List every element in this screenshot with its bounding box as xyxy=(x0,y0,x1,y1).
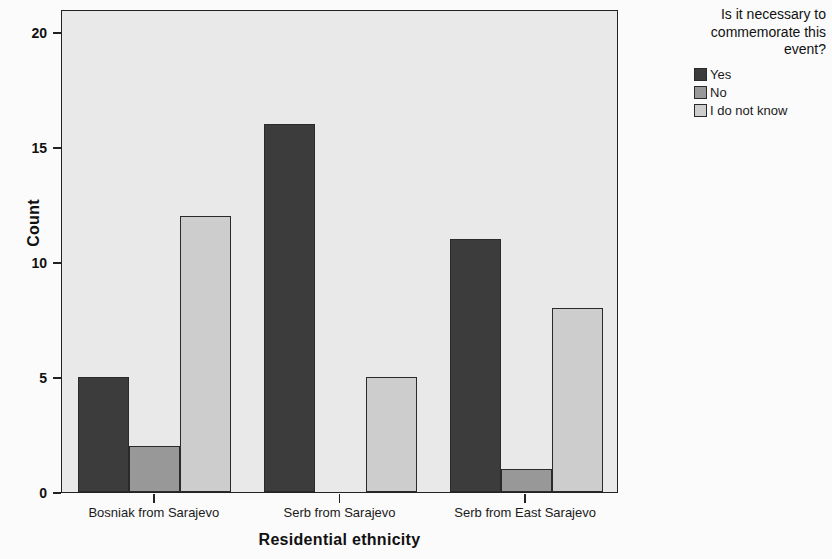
bar xyxy=(78,377,129,492)
plot-area xyxy=(61,10,618,493)
x-axis-tick-label: Serb from Sarajevo xyxy=(247,505,433,520)
y-axis-title: Count xyxy=(25,183,43,263)
bar xyxy=(450,239,501,492)
y-axis-tick-label: 20 xyxy=(13,26,47,40)
x-axis-tick-mark xyxy=(153,494,155,503)
legend-item-label: Yes xyxy=(710,67,731,82)
y-axis-tick-label: 15 xyxy=(13,141,47,155)
legend-title: Is it necessary to commemorate this even… xyxy=(648,6,826,59)
y-axis: 05101520 xyxy=(0,0,61,559)
y-axis-tick-mark xyxy=(53,262,61,264)
x-axis-tick-label: Bosniak from Sarajevo xyxy=(61,505,247,520)
y-axis-tick-mark xyxy=(53,32,61,34)
legend-items: YesNoI do not know xyxy=(648,66,826,119)
bar xyxy=(366,377,417,492)
legend-swatch-icon xyxy=(694,68,707,81)
y-axis-tick-mark xyxy=(53,492,61,494)
bars-container xyxy=(62,11,617,492)
legend-swatch-icon xyxy=(694,86,707,99)
x-axis-tick-mark xyxy=(524,494,526,503)
x-axis-title: Residential ethnicity xyxy=(61,531,618,549)
bar xyxy=(264,124,315,492)
legend-item: Yes xyxy=(694,66,826,83)
y-axis-tick-mark xyxy=(53,377,61,379)
legend-item-label: I do not know xyxy=(710,103,787,118)
x-axis-tick-label: Serb from East Sarajevo xyxy=(432,505,618,520)
bar xyxy=(129,446,180,492)
x-axis-tick-mark xyxy=(339,494,341,503)
y-axis-tick-mark xyxy=(53,147,61,149)
y-axis-tick-label: 5 xyxy=(13,371,47,385)
legend: Is it necessary to commemorate this even… xyxy=(648,6,826,120)
bar xyxy=(180,216,231,492)
legend-item: No xyxy=(694,84,826,101)
chart-figure: 05101520 Count Bosniak from SarajevoSerb… xyxy=(0,0,832,559)
bar xyxy=(552,308,603,492)
y-axis-tick-label: 0 xyxy=(13,486,47,500)
legend-item-label: No xyxy=(710,85,727,100)
legend-swatch-icon xyxy=(694,104,707,117)
legend-item: I do not know xyxy=(694,102,826,119)
bar xyxy=(501,469,552,492)
